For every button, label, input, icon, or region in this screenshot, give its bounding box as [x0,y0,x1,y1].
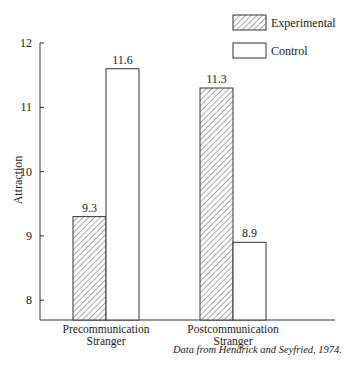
y-tick-label: 8 [26,293,32,307]
source-note: Data from Hendrick and Seyfried, 1974. [172,344,342,355]
y-tick-label: 9 [26,229,32,243]
data-label: 8.9 [242,226,257,240]
legend: ExperimentalControl [233,15,336,58]
data-label: 11.3 [206,72,227,86]
y-axis-label: Attraction [11,156,25,205]
legend-label-control: Control [271,44,308,58]
data-label: 11.6 [112,53,133,67]
y-tick-label: 11 [20,100,32,114]
bar-experimental [73,217,106,320]
x-tick-label: Postcommunication [187,323,279,335]
legend-swatch-experimental [233,15,266,30]
y-tick-label: 12 [20,36,32,50]
x-tick-label: Stranger [87,335,126,348]
bar-chart: ExperimentalControl 89101112Precommunica… [0,0,349,368]
data-label: 9.3 [82,201,97,215]
bar-control [233,242,266,320]
axes: 89101112PrecommunicationStrangerPostcomm… [20,36,335,348]
x-tick-label: Precommunication [63,323,150,335]
bar-experimental [200,88,233,320]
legend-swatch-control [233,43,266,58]
bar-control [106,69,139,320]
legend-label-experimental: Experimental [271,16,336,30]
bars: 9.311.611.38.9 [73,53,266,320]
